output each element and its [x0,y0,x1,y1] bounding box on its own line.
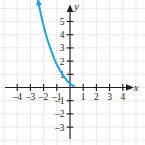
x-tick-label: –4 [11,92,22,102]
x-tick-label: 3 [107,92,112,102]
y-tick-label: –2 [54,109,65,119]
x-tick-label: –2 [38,92,49,102]
x-tick-label: 1 [81,92,86,102]
y-tick-label: –3 [54,123,65,133]
y-tick-label: –1 [54,96,65,106]
graph-canvas: –4–3–2–1123454321–1–2–3 x y [0,0,145,145]
x-tick-label: 2 [94,92,99,102]
y-tick-label: 3 [60,43,65,53]
y-axis-label: y [73,1,79,12]
axes-group [5,5,134,140]
x-tick-label: 4 [120,92,125,102]
curve-arrowhead [36,0,42,6]
y-tick-label: 4 [60,30,65,40]
exponential-decay-figure: –4–3–2–1123454321–1–2–3 x y [0,0,145,145]
x-axis-label: x [133,82,139,93]
y-tick-label: 5 [60,17,65,27]
x-tick-label: –3 [25,92,36,102]
data-series-group [36,0,74,86]
y-tick-label: 2 [60,57,65,67]
